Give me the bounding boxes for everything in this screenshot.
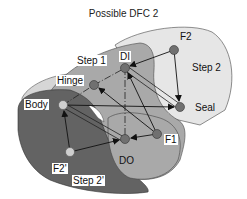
node-do xyxy=(121,135,130,144)
label-f2prime: F2' xyxy=(52,163,68,174)
label-body: Body xyxy=(24,99,49,110)
label-seal: Seal xyxy=(194,102,216,113)
label-step1: Step 1 xyxy=(76,55,107,66)
label-f2: F2 xyxy=(179,31,193,42)
label-step2prime: Step 2' xyxy=(72,175,105,186)
node-f1 xyxy=(153,130,162,139)
node-seal xyxy=(176,103,185,112)
node-f2 xyxy=(170,46,179,55)
region-do xyxy=(108,113,180,179)
node-di xyxy=(121,64,130,73)
label-di: DI xyxy=(119,51,131,62)
node-body xyxy=(59,101,68,110)
node-hinge xyxy=(90,81,99,90)
label-step2: Step 2 xyxy=(191,62,222,73)
label-do: DO xyxy=(118,155,135,166)
label-f1: F1 xyxy=(164,134,178,145)
node-f2prime xyxy=(66,148,75,157)
label-hinge: Hinge xyxy=(56,75,84,86)
